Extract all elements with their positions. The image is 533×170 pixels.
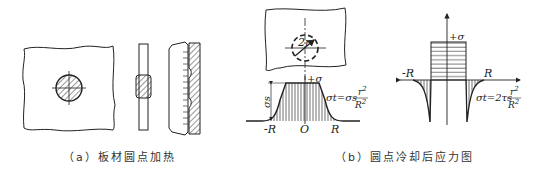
x-label-origin: O	[300, 123, 309, 136]
formula-numerator: r2	[358, 85, 367, 97]
yield-label: σs	[261, 96, 272, 108]
x-label-r: R	[330, 123, 339, 136]
formula-main: σt=2τs	[476, 92, 512, 103]
x-label-neg-r: -R	[264, 123, 276, 136]
diameter-label: 2r	[297, 36, 311, 49]
formula-denominator: R2	[507, 98, 520, 110]
formula-numerator: r2	[510, 85, 519, 97]
figure-canvas: 2r +σ σs σt=σs r2 R2 -R O R +σ -R R σt=2…	[0, 0, 533, 170]
formula-denominator: R2	[354, 98, 367, 110]
cooling-stress-curve: +σ -R R σt=2τs r2 R2	[400, 14, 521, 125]
x-label-neg-r: -R	[402, 67, 414, 80]
caption-a: （a）板材圆点加热	[63, 148, 176, 164]
side-section-heated	[136, 44, 151, 130]
plate-top-view-b: 2r	[265, 8, 346, 80]
y-axis-label: +σ	[449, 31, 465, 42]
heating-stress-curve: +σ σs σt=σs r2 R2 -R O R	[246, 73, 368, 136]
y-axis-label: +σ	[307, 73, 323, 84]
x-label-r: R	[483, 67, 492, 80]
caption-b: （b）圆点冷却后应力图	[335, 148, 474, 164]
side-section-after-upsetting	[169, 42, 200, 135]
formula-main: σt=σs	[326, 92, 357, 103]
plate-top-view	[23, 46, 115, 131]
